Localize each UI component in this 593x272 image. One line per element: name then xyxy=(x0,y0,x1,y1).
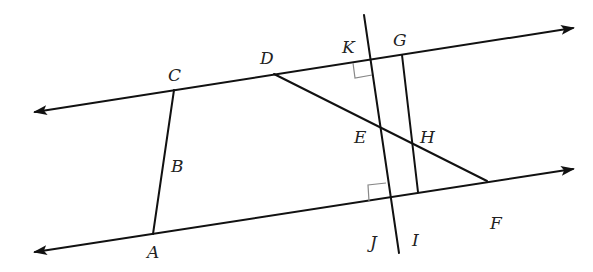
right-angle-marker-K xyxy=(353,63,372,78)
label-K: K xyxy=(341,37,356,57)
label-C: C xyxy=(168,65,181,85)
segment-DF xyxy=(274,74,487,181)
label-A: A xyxy=(145,242,159,262)
label-E: E xyxy=(353,127,367,147)
geometry-diagram: C D K G E H B A J I F xyxy=(0,0,593,272)
label-H: H xyxy=(419,127,436,147)
label-J: J xyxy=(367,232,378,252)
segment-GI xyxy=(402,55,418,192)
label-F: F xyxy=(489,213,503,233)
label-D: D xyxy=(259,48,274,68)
top-parallel-line xyxy=(35,28,573,112)
label-I: I xyxy=(411,230,419,250)
label-B: B xyxy=(170,156,184,176)
bottom-parallel-line xyxy=(35,169,573,252)
label-G: G xyxy=(393,30,407,50)
